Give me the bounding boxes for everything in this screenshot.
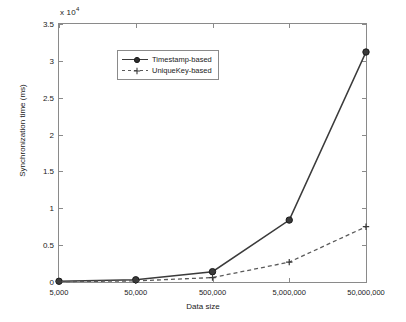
data-point-plus: [209, 274, 215, 280]
y-tick-label: 2: [50, 130, 54, 139]
y-tick-mark: [362, 282, 366, 283]
x-tick-label: 5,000: [50, 288, 69, 297]
legend-item-timestamp-based: Timestamp-based: [122, 54, 212, 65]
legend-label-uniquekey-based: UniqueKey-based: [148, 66, 212, 75]
series-line-timestamp-based: [59, 52, 366, 281]
data-point-plus: [363, 224, 369, 230]
y-tick-label: 2.5: [43, 93, 54, 102]
chart-legend: Timestamp-based UniqueKey-based: [117, 50, 219, 80]
y-tick-label: 0.5: [43, 241, 54, 250]
y-axis-exponent-prefix: x 10: [60, 8, 76, 17]
y-axis-exponent: x 104: [60, 6, 79, 17]
data-point-circle: [363, 49, 369, 55]
x-tick-mark: [366, 278, 367, 282]
plot-area: Timestamp-based UniqueKey-based: [58, 23, 367, 283]
plus-marker-icon: [133, 67, 141, 75]
data-point-circle: [286, 217, 292, 223]
y-axis-title: Synchronization time (ms): [18, 11, 27, 251]
x-axis-title: Data size: [0, 302, 406, 311]
circle-marker-icon: [133, 56, 141, 64]
y-tick-label: 3: [50, 56, 54, 65]
x-tick-label: 50,000: [124, 288, 147, 297]
data-point-plus: [286, 259, 292, 265]
x-tick-label: 5,000,000: [273, 288, 306, 297]
y-axis-exponent-power: 4: [76, 6, 80, 12]
legend-swatch-solid-circle: [122, 54, 148, 65]
y-axis-tick-labels: 00.511.522.533.5: [0, 0, 54, 322]
legend-item-uniquekey-based: UniqueKey-based: [122, 65, 212, 76]
chart-figure: x 104 00.511.522.533.5 Synchronization t…: [0, 0, 406, 322]
legend-swatch-dashed-plus: [122, 65, 148, 76]
x-tick-mark: [366, 24, 367, 28]
y-tick-label: 3.5: [43, 20, 54, 29]
data-point-circle: [209, 268, 215, 274]
y-tick-label: 0: [50, 278, 54, 287]
x-tick-label: 500,000: [199, 288, 226, 297]
y-tick-label: 1: [50, 204, 54, 213]
x-tick-label: 50,000,000: [347, 288, 385, 297]
y-tick-label: 1.5: [43, 167, 54, 176]
legend-label-timestamp-based: Timestamp-based: [148, 55, 212, 64]
